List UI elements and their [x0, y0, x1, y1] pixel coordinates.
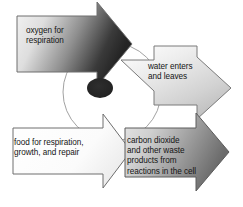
nucleus-icon [87, 78, 113, 98]
diagram-canvas [0, 0, 243, 207]
cell-exchange-diagram: oxygen for respiration water enters and … [0, 0, 243, 207]
arrow-waste [125, 113, 229, 191]
arrow-oxygen [17, 2, 132, 86]
arrow-water [121, 46, 231, 119]
arrow-food [13, 114, 131, 188]
